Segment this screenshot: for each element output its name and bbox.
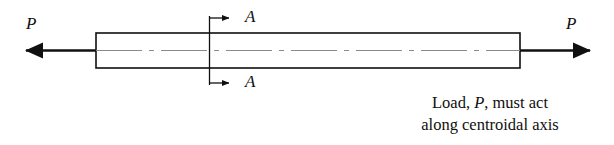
load-label-right: P [566, 15, 576, 32]
axial-load-figure: P P A A Load, P, must act along centroid… [0, 0, 614, 145]
load-label-left: P [26, 15, 36, 32]
caption-line-1: Load, P, must act [378, 92, 602, 114]
section-label-bottom: A [245, 73, 255, 90]
section-label-top: A [245, 8, 255, 25]
caption-line-1-suffix: , must act [484, 93, 548, 112]
caption-line-1-prefix: Load, [432, 93, 474, 112]
figure-caption: Load, P, must act along centroidal axis [378, 92, 602, 137]
caption-line-2: along centroidal axis [378, 114, 602, 136]
caption-variable-p: P [474, 93, 484, 112]
